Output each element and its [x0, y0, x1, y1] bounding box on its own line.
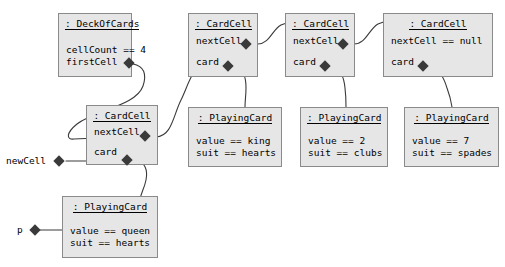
object-title: : PlayingCard: [405, 108, 498, 126]
object-title: : PlayingCard: [63, 197, 157, 215]
object-deck-of-cards[interactable]: : DeckOfCards cellCount == 4 firstCell: [58, 13, 132, 77]
object-title: : PlayingCard: [301, 108, 387, 126]
attribute-text: card: [391, 56, 414, 67]
attribute-text: suit == spades: [412, 147, 492, 158]
attribute-row: cellCount == 4: [66, 44, 124, 56]
role-label-newCell: newCell: [6, 156, 46, 166]
edge-cell0-card-to-card0: [136, 160, 147, 200]
object-title: : DeckOfCards: [59, 14, 131, 32]
attribute-text: nextCell: [293, 35, 339, 46]
attribute-row: value == 7: [412, 135, 491, 147]
object-attributes: cellCount == 4 firstCell: [59, 32, 131, 72]
attribute-text: value == queen: [70, 225, 150, 236]
role-diamond-newCell[interactable]: [53, 155, 64, 166]
role-label-text: p: [17, 224, 23, 235]
attribute-text: value == king: [196, 135, 270, 146]
attribute-text: suit == clubs: [308, 147, 382, 158]
attribute-row: card: [94, 146, 150, 158]
attribute-text: nextCell == null: [391, 35, 483, 46]
object-attributes: value == king suit == hearts: [189, 126, 281, 163]
role-diamond-p[interactable]: [29, 224, 40, 235]
object-title: : CardCell: [87, 106, 157, 124]
attribute-text: nextCell: [196, 35, 242, 46]
object-playing-card-two[interactable]: : PlayingCard value == 2 suit == clubs: [300, 107, 388, 167]
attribute-row: value == queen: [70, 225, 150, 237]
attribute-row: value == king: [196, 135, 274, 147]
object-attributes: value == 7 suit == spades: [405, 126, 498, 163]
object-title: : CardCell: [189, 14, 257, 32]
object-attributes: value == queen suit == hearts: [63, 215, 157, 253]
object-attributes: nextCell card: [87, 124, 157, 162]
object-attributes: value == 2 suit == clubs: [301, 126, 387, 163]
attribute-text: card: [94, 146, 117, 157]
attribute-text: suit == hearts: [70, 237, 150, 248]
attribute-row: suit == spades: [412, 147, 491, 159]
object-playing-card-seven[interactable]: : PlayingCard value == 7 suit == spades: [404, 107, 499, 167]
object-playing-card-king[interactable]: : PlayingCard value == king suit == hear…: [188, 107, 282, 167]
uml-object-diagram: : DeckOfCards cellCount == 4 firstCell :…: [0, 0, 505, 267]
attribute-text: value == 7: [412, 135, 469, 146]
role-label-p: p: [17, 225, 23, 235]
attribute-row: firstCell: [66, 56, 124, 68]
object-playing-card-queen[interactable]: : PlayingCard value == queen suit == hea…: [62, 196, 158, 258]
attribute-row: value == 2: [308, 135, 380, 147]
attribute-text: suit == hearts: [196, 147, 276, 158]
attribute-row: nextCell == null: [391, 35, 485, 47]
object-title: : CardCell: [384, 14, 492, 32]
attribute-text: card: [293, 56, 316, 67]
attribute-text: cellCount == 4: [66, 44, 146, 55]
attribute-text: nextCell: [94, 126, 140, 137]
attribute-text: firstCell: [66, 56, 117, 67]
attribute-row: suit == hearts: [70, 237, 150, 249]
object-card-cell-3[interactable]: : CardCell nextCell == null card: [383, 13, 493, 77]
attribute-row: card: [391, 56, 485, 68]
object-title: : CardCell: [286, 14, 354, 32]
object-title: : PlayingCard: [189, 108, 281, 126]
attribute-text: value == 2: [308, 135, 365, 146]
attribute-row: suit == hearts: [196, 147, 274, 159]
attribute-row: suit == clubs: [308, 147, 380, 159]
role-label-text: newCell: [6, 155, 46, 166]
object-attributes: nextCell == null card: [384, 32, 492, 72]
attribute-text: card: [196, 56, 219, 67]
